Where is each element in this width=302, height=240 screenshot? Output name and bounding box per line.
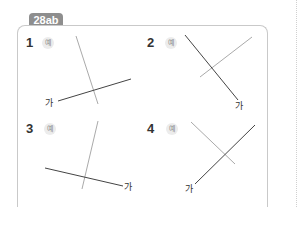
p1-light-line — [76, 36, 98, 104]
problem-number-1: 1 — [26, 35, 33, 50]
p1-dark-line-ga — [58, 79, 131, 101]
example-badge-2: 예 — [165, 37, 177, 49]
p2-light-line — [200, 37, 252, 77]
line-label-3: 가 — [124, 180, 132, 193]
line-label-2: 가 — [235, 99, 243, 112]
p3-dark-line-ga — [45, 168, 123, 186]
example-badge-1: 예 — [42, 37, 54, 49]
p4-light-line — [191, 122, 235, 164]
example-badge-4: 예 — [166, 123, 178, 135]
example-badge-3: 예 — [44, 123, 56, 135]
problem-number-4: 4 — [147, 121, 154, 136]
problem-number-2: 2 — [147, 35, 154, 50]
line-label-1: 가 — [45, 96, 53, 109]
problem-number-3: 3 — [26, 121, 33, 136]
p2-dark-line-ga — [185, 35, 238, 100]
line-label-4: 가 — [185, 182, 193, 195]
